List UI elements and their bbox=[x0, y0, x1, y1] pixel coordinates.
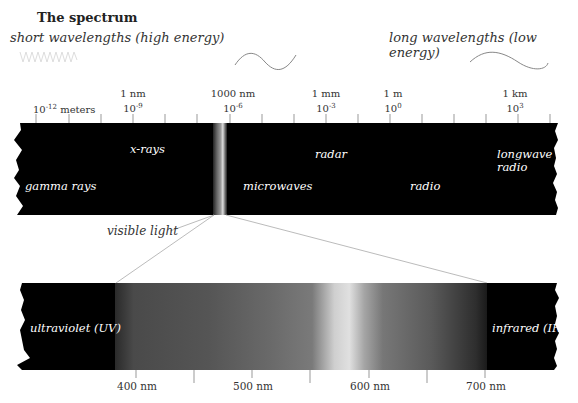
band-label-radio: radio bbox=[410, 180, 440, 193]
tick-label-500nm: 500 nm bbox=[233, 380, 273, 392]
short-wavelength-wave-icon bbox=[20, 52, 77, 62]
infrared-label: infrared (IR) bbox=[492, 322, 565, 335]
scale-label-1e3: 1 km 103 bbox=[500, 88, 530, 115]
medium-wavelength-wave-icon bbox=[235, 53, 296, 69]
spectrum-graphics bbox=[0, 0, 578, 403]
short-wavelength-label: short wavelengths (high energy) bbox=[10, 30, 224, 45]
band-label-microwaves: microwaves bbox=[243, 180, 312, 193]
visible-light-slice bbox=[213, 123, 227, 215]
scale-label-1e-9: 1 nm 10-9 bbox=[118, 88, 148, 115]
ultraviolet-label: ultraviolet (UV) bbox=[30, 322, 121, 335]
tick-label-700nm: 700 nm bbox=[466, 380, 506, 392]
visible-ticks bbox=[136, 370, 485, 383]
band-label-radar: radar bbox=[315, 148, 347, 161]
band-label-gamma-rays: gamma rays bbox=[25, 180, 96, 193]
visible-light-label: visible light bbox=[107, 224, 178, 238]
visible-spectrum-gradient bbox=[115, 283, 487, 370]
scale-label-1e-3: 1 mm 10-3 bbox=[311, 88, 341, 115]
diagram-title: The spectrum bbox=[37, 10, 138, 25]
tick-label-600nm: 600 nm bbox=[350, 380, 390, 392]
scale-ticks bbox=[36, 114, 550, 123]
band-label-x-rays: x-rays bbox=[130, 143, 165, 156]
band-label-longwave-radio: longwave radio bbox=[497, 148, 552, 174]
scale-label-1e-6: 1000 nm 10-6 bbox=[210, 88, 256, 115]
scale-label-1e-12: 10-12 meters bbox=[33, 101, 95, 116]
tick-label-400nm: 400 nm bbox=[117, 380, 157, 392]
scale-label-1e0: 1 m 100 bbox=[378, 88, 408, 115]
electromagnetic-band bbox=[14, 123, 558, 215]
long-wavelength-label: long wavelengths (low energy) bbox=[389, 30, 578, 60]
